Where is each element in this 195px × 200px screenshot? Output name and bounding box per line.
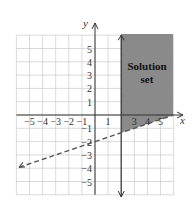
svg-text:1: 1 xyxy=(106,116,111,127)
svg-text:3: 3 xyxy=(87,70,92,81)
svg-text:1: 1 xyxy=(87,97,92,108)
svg-text:−3: −3 xyxy=(50,116,61,127)
svg-text:4: 4 xyxy=(145,116,150,127)
svg-text:−4: −4 xyxy=(81,163,92,174)
svg-text:−1: −1 xyxy=(81,123,92,134)
svg-text:−3: −3 xyxy=(81,150,92,161)
svg-text:−2: −2 xyxy=(81,137,92,148)
svg-text:5: 5 xyxy=(158,116,163,127)
svg-text:2: 2 xyxy=(87,83,92,94)
y-axis-label: y xyxy=(82,17,88,29)
solution-label-line2: set xyxy=(141,73,154,85)
svg-text:3: 3 xyxy=(132,116,137,127)
svg-text:−5: −5 xyxy=(81,177,92,188)
solution-label-line1: Solution xyxy=(127,60,166,72)
svg-text:4: 4 xyxy=(87,57,92,68)
svg-text:−5: −5 xyxy=(24,116,35,127)
svg-text:5: 5 xyxy=(87,44,92,55)
inequality-graph: −5−4−3−2−1134554321−1−2−3−4−5 x y Soluti… xyxy=(0,0,195,200)
x-axis-label: x xyxy=(179,114,185,126)
svg-text:−2: −2 xyxy=(63,116,74,127)
svg-text:−4: −4 xyxy=(37,116,48,127)
